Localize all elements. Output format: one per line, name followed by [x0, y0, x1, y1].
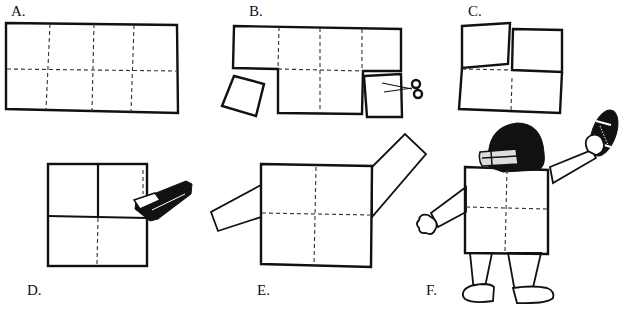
- left-shoe: [463, 284, 494, 302]
- right-arm: [550, 150, 596, 183]
- cut-square-left: [222, 76, 264, 116]
- step-a-rectangle: [6, 23, 178, 113]
- step-b-cut-paper: [222, 26, 402, 117]
- step-c-folded-paper: [459, 23, 562, 113]
- step-f-football-player: [417, 106, 623, 303]
- step-e-body-with-arms: [211, 134, 426, 267]
- step-d-stapled-square: [48, 164, 147, 266]
- right-shoe: [513, 287, 553, 304]
- right-hand-icon: [586, 135, 604, 155]
- diagram-canvas: [0, 0, 634, 313]
- helmet-icon: [479, 123, 544, 172]
- cut-square-right: [364, 74, 402, 117]
